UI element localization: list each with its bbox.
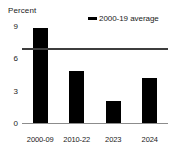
bar-2024 [142, 78, 157, 124]
bar-2000-09 [33, 28, 48, 124]
x-label-slot: 2024 [132, 128, 169, 146]
bars-layer [22, 27, 168, 124]
bar-chart: Percent 2000-19 average 9 6 3 0 [0, 0, 174, 148]
bar-slot [59, 27, 96, 124]
plot-area: 9 6 3 0 [22, 27, 168, 124]
x-axis-baseline [22, 123, 168, 124]
line-marker-icon [88, 17, 97, 20]
legend-item-label: 2000-19 average [99, 14, 159, 23]
average-reference-line [22, 48, 168, 50]
x-label-slot: 2000-09 [22, 128, 59, 146]
x-tick-label-2000-09: 2000-09 [27, 135, 54, 144]
x-tick-label-2010-22: 2010-22 [63, 135, 90, 144]
bar-slot [132, 27, 169, 124]
x-label-slot: 2010-22 [59, 128, 96, 146]
bar-2023 [106, 101, 121, 124]
bar-2010-22 [69, 71, 84, 124]
bar-slot [95, 27, 132, 124]
bar-slot [22, 27, 59, 124]
y-tick-label-0: 0 [14, 120, 18, 128]
x-tick-label-2023: 2023 [105, 135, 121, 144]
x-tick-label-2024: 2024 [142, 135, 158, 144]
x-axis-labels: 2000-09 2010-22 2023 2024 [22, 128, 168, 146]
y-axis-unit-label: Percent [8, 6, 36, 15]
x-label-slot: 2023 [95, 128, 132, 146]
chart-legend: 2000-19 average [88, 14, 159, 23]
y-tick-label-6: 6 [14, 55, 18, 63]
y-tick-label-9: 9 [14, 23, 18, 31]
y-tick-label-3: 3 [14, 88, 18, 96]
